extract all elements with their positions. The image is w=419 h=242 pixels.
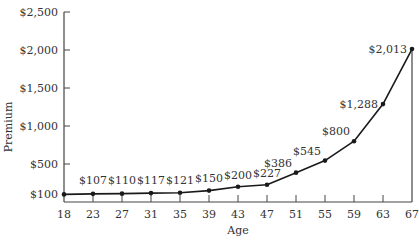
- data-label: $107: [79, 174, 107, 187]
- x-tick-label: 18: [57, 208, 71, 221]
- x-tick-label: 51: [289, 208, 303, 221]
- data-label: $200: [224, 169, 252, 182]
- data-label: $386: [264, 157, 292, 170]
- data-label: $117: [137, 174, 165, 187]
- y-tick-label: $2,000: [20, 44, 59, 57]
- premium-by-age-chart: $100$500$1,000$1,500$2,000$2,500 1823273…: [0, 0, 419, 242]
- data-point: [120, 191, 125, 196]
- y-tick-label: $1,000: [20, 120, 59, 133]
- data-label: $121: [166, 174, 194, 187]
- data-point: [352, 139, 357, 144]
- x-tick-label: 31: [144, 208, 158, 221]
- x-tick-label: 55: [318, 208, 332, 221]
- x-tick-label: 27: [115, 208, 129, 221]
- x-axis-title: Age: [226, 224, 249, 237]
- x-tick-label: 43: [231, 208, 245, 221]
- data-label: $800: [322, 125, 350, 138]
- data-label: $1,288: [340, 98, 379, 111]
- x-tick-label: 47: [260, 208, 274, 221]
- data-point: [207, 188, 212, 193]
- data-point: [381, 102, 386, 107]
- y-axis-ticks: $100$500$1,000$1,500$2,000$2,500: [20, 6, 71, 201]
- data-point: [265, 182, 270, 187]
- data-point: [91, 192, 96, 197]
- y-tick-label: $500: [30, 158, 58, 171]
- data-point: [236, 185, 241, 190]
- x-tick-label: 59: [347, 208, 361, 221]
- x-tick-label: 23: [86, 208, 100, 221]
- x-tick-label: 67: [405, 208, 419, 221]
- data-point: [410, 47, 415, 52]
- x-axis-ticks: 18232731353943475155596367: [57, 195, 419, 221]
- data-point: [149, 191, 154, 196]
- data-label: $2,013: [369, 43, 408, 56]
- y-axis-title: Premium: [2, 101, 15, 152]
- data-point: [178, 191, 183, 196]
- data-label: $110: [108, 174, 136, 187]
- data-point: [323, 158, 328, 163]
- y-tick-label: $100: [30, 188, 58, 201]
- data-label: $545: [293, 145, 321, 158]
- y-tick-label: $1,500: [20, 82, 59, 95]
- y-tick-label: $2,500: [20, 6, 59, 19]
- x-tick-label: 35: [173, 208, 187, 221]
- x-tick-label: 63: [376, 208, 390, 221]
- data-point: [62, 192, 67, 197]
- data-point: [294, 170, 299, 175]
- data-label: $150: [195, 172, 223, 185]
- data-labels: $107$110$117$121$150$200$227$386$545$800…: [79, 43, 407, 187]
- x-tick-label: 39: [202, 208, 216, 221]
